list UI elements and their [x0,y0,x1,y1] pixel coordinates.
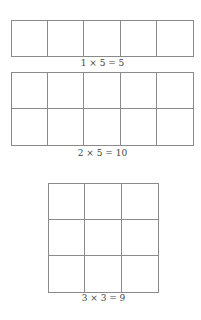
grid-cell [121,109,157,145]
grid-cell [122,220,158,256]
grid-1x5 [11,20,194,57]
grid-cell [157,109,193,145]
grid-cell [49,256,85,292]
grid-cell [122,184,158,220]
grid-2x5 [11,72,194,146]
grid-cell [85,184,121,220]
grid-cell [49,184,85,220]
grid-cell [157,21,193,56]
grid-cell [48,73,84,109]
grid-cell [157,73,193,109]
grid-cell [48,109,84,145]
grid-cell [84,109,120,145]
grid-cell [122,256,158,292]
grid-cell [121,21,157,56]
grid-cell [84,73,120,109]
grid-cell [48,21,84,56]
label-2x5: 2 × 5 = 10 [11,148,194,158]
grid-cell [85,220,121,256]
grid-cell [121,73,157,109]
grid-3x3 [48,183,159,293]
grid-cell [12,109,48,145]
label-1x5: 1 × 5 = 5 [11,58,194,68]
grid-cell [12,21,48,56]
label-3x3: 3 × 3 = 9 [48,293,159,303]
grid-cell [85,256,121,292]
grid-cell [84,21,120,56]
grid-cell [12,73,48,109]
grid-cell [49,220,85,256]
